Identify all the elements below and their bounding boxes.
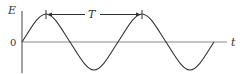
sine-wave-diagram: E 0 T t bbox=[0, 0, 241, 74]
origin-label: 0 bbox=[10, 37, 16, 48]
arrowhead-left-icon bbox=[47, 13, 52, 17]
arrowhead-right-icon bbox=[136, 13, 141, 17]
x-axis-label: t bbox=[231, 36, 236, 49]
period-label: T bbox=[88, 8, 97, 21]
y-axis-label: E bbox=[7, 4, 16, 17]
